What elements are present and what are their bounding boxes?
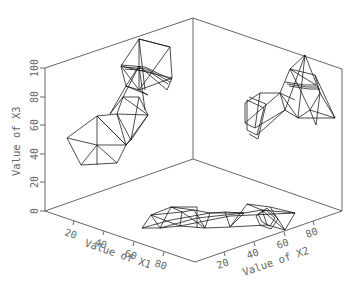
wireframe-edge — [110, 97, 123, 114]
x1-tick-label: 80 — [153, 257, 168, 271]
x2-tick-label: 80 — [304, 226, 319, 240]
x1-tick — [73, 221, 74, 225]
x3-axis: 020406080100 — [29, 59, 45, 214]
3d-plot: 020406080100 20406080 20406080 Value of … — [0, 0, 359, 288]
x3-tick-label: 0 — [29, 208, 40, 214]
wireframe-edge — [97, 114, 148, 145]
x1-tick-label: 20 — [63, 226, 78, 240]
x2-tick — [284, 232, 285, 236]
x2-tick — [224, 252, 225, 256]
floor-projection-x1-x2 — [142, 204, 295, 230]
wireframe-edge — [255, 110, 285, 128]
wireframe-edge — [97, 145, 117, 163]
frame-edge — [193, 18, 342, 69]
wireframe-edge — [160, 207, 171, 228]
x3-tick-label: 100 — [29, 59, 40, 77]
x2-tick-label: 40 — [245, 247, 260, 261]
x3-tick-label: 40 — [29, 148, 40, 160]
wireframe-edge — [123, 66, 139, 97]
wireframe-edge — [67, 116, 126, 165]
x3-tick-label: 80 — [29, 91, 40, 103]
x3-axis-label: Value of X3 — [10, 106, 22, 176]
x2-tick — [313, 221, 314, 225]
frame-edge — [193, 159, 342, 211]
x1-axis-label: Value of X1 — [83, 237, 153, 271]
right-wall-projection-x2-x3 — [245, 55, 335, 139]
x2-tick-label: 60 — [275, 237, 290, 251]
wireframe-edge — [182, 210, 194, 212]
x1-tick — [163, 252, 164, 256]
wireframe-edge — [244, 210, 262, 213]
wireframe-edge — [280, 93, 298, 118]
wireframe-edge — [81, 145, 97, 165]
plot-box-frame — [45, 18, 342, 262]
wireframe-edge — [139, 39, 170, 47]
x3-tick-label: 20 — [29, 176, 40, 188]
wireframe-edge — [126, 140, 131, 145]
x2-tick — [254, 242, 255, 246]
wireframe-edge — [117, 114, 131, 140]
x3-tick-label: 60 — [29, 119, 40, 131]
wireframe-edge — [316, 93, 320, 125]
x1-tick — [133, 242, 134, 246]
wireframe-edge — [310, 110, 316, 125]
frame-edge — [45, 159, 193, 211]
x2-tick-label: 20 — [215, 257, 230, 271]
left-wall-projection-x1-x3 — [67, 39, 172, 165]
wireframe-edge — [194, 210, 205, 228]
x1-tick — [103, 231, 104, 235]
wireframe-edge — [257, 110, 285, 135]
wireframe-edge — [67, 138, 97, 145]
wireframe-edge — [247, 100, 264, 135]
wireframe-edge — [280, 69, 320, 118]
